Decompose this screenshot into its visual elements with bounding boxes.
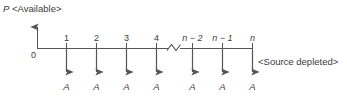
tick-label-n-minus-2: n − 2 xyxy=(182,34,202,43)
tick-label-4: 4 xyxy=(154,34,159,43)
origin-label: 0 xyxy=(31,51,36,60)
arrow-label-2: A xyxy=(93,82,99,92)
tick-label-3: 3 xyxy=(124,34,129,43)
figure-canvas: P <Available> 0 1 2 3 4 n − 2 n − 1 n A … xyxy=(0,0,347,97)
arrow-label-3: A xyxy=(123,82,129,92)
arrow-label-1: A xyxy=(63,82,69,92)
vertical-axis-label-rest: <Available> xyxy=(9,3,61,14)
tick-label-1: 1 xyxy=(64,34,69,43)
source-depleted-note: <Source depleted> xyxy=(258,57,338,67)
tick-label-2: 2 xyxy=(94,34,99,43)
arrow-label-n-minus-1: A xyxy=(219,82,225,92)
tick-label-n: n xyxy=(250,34,255,43)
tick-label-n-minus-1: n − 1 xyxy=(212,34,232,43)
arrow-label-n-minus-2: A xyxy=(189,82,195,92)
arrow-label-4: A xyxy=(153,82,159,92)
axis-graphic xyxy=(0,0,347,97)
vertical-axis-label: P <Available> xyxy=(3,4,61,14)
axis-break-icon xyxy=(167,45,181,51)
arrow-label-n: A xyxy=(249,82,255,92)
